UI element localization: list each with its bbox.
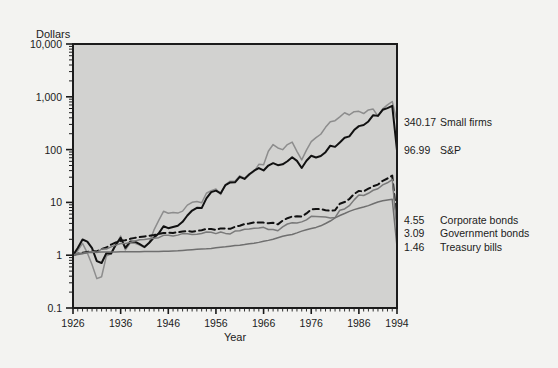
- x-tick-label: 1946: [157, 317, 181, 329]
- y-tick-label: 10: [50, 196, 62, 208]
- x-tick-label: 1994: [385, 317, 409, 329]
- figure-panel: 10,0001,0001001010.1 1926193619461956196…: [0, 0, 558, 368]
- x-tick-label: 1966: [252, 317, 276, 329]
- series-end-value: 4.55: [404, 214, 425, 226]
- y-axis-title: Dollars: [36, 28, 71, 40]
- x-tick-label: 1956: [204, 317, 228, 329]
- x-axis-title: Year: [224, 331, 247, 343]
- series-end-value: 1.46: [404, 241, 425, 253]
- y-tick-label: 1: [56, 249, 62, 261]
- y-tick-label: 0.1: [47, 302, 62, 314]
- series-end-name: Government bonds: [440, 227, 529, 239]
- y-tick-label: 100: [44, 144, 62, 156]
- series-end-name: S&P: [440, 144, 461, 156]
- series-end-value: 340.17: [404, 116, 436, 128]
- plot-area-background: [73, 44, 397, 308]
- y-tick-label: 1,000: [36, 91, 62, 103]
- x-tick-label: 1926: [61, 317, 85, 329]
- series-end-value: 3.09: [404, 227, 425, 239]
- line-chart: 10,0001,0001001010.1 1926193619461956196…: [0, 0, 558, 368]
- series-end-value: 96.99: [404, 144, 430, 156]
- x-tick-label: 1936: [109, 317, 133, 329]
- series-end-name: Small firms: [440, 116, 492, 128]
- series-end-name: Corporate bonds: [440, 214, 518, 226]
- x-tick-label: 1976: [300, 317, 324, 329]
- x-tick-label: 1986: [347, 317, 371, 329]
- series-end-name: Treasury bills: [440, 241, 502, 253]
